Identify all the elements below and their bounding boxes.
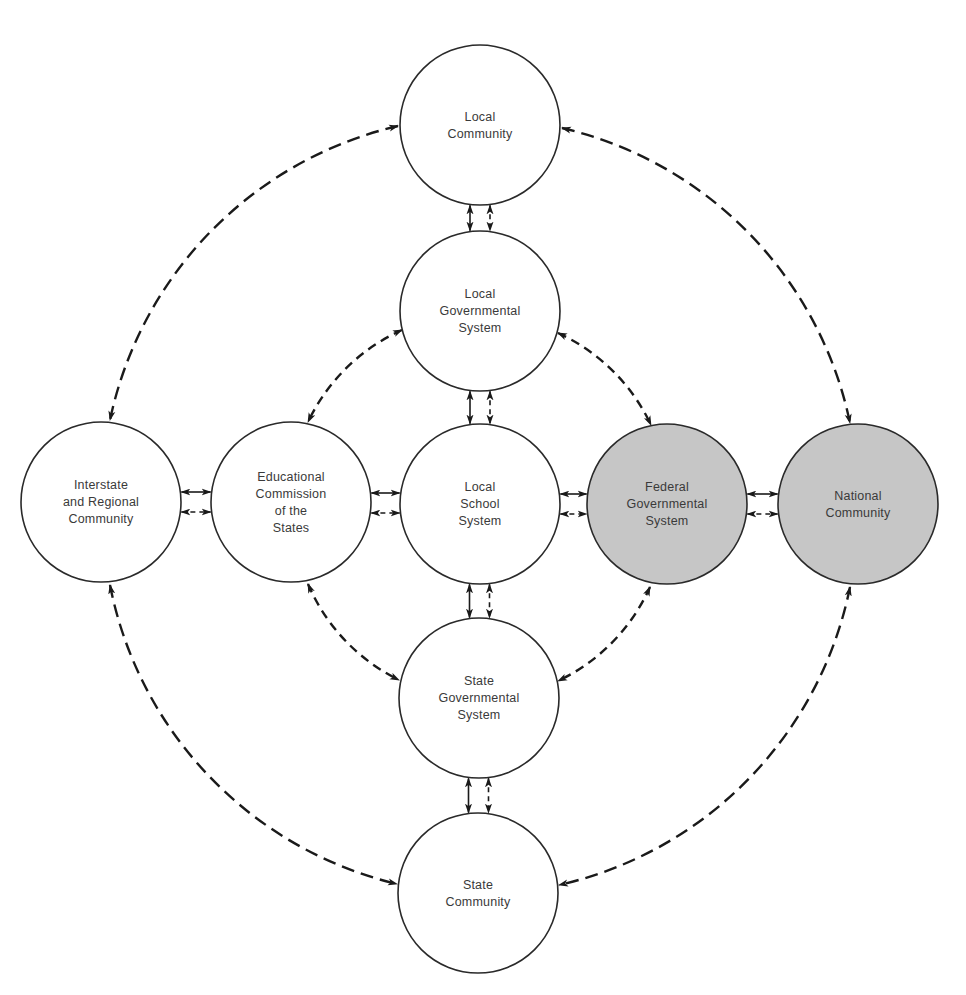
link-pair-local-school-system-federal-governmental-system <box>560 494 586 514</box>
arc-interstate-state-community <box>110 585 397 884</box>
node-label-line: Governmental <box>627 497 708 511</box>
node-label-line: System <box>458 708 501 722</box>
arc-national-state-community <box>559 587 850 885</box>
nodes: LocalCommunityLocalGovernmentalSystemLoc… <box>21 45 938 973</box>
node-interstate-regional-community: Interstateand RegionalCommunity <box>21 422 181 582</box>
arc-local-community-national <box>562 128 850 423</box>
link-pair-federal-governmental-system-national-community <box>747 494 777 514</box>
node-local-governmental-system: LocalGovernmentalSystem <box>400 231 560 391</box>
node-label-line: States <box>273 521 310 535</box>
arc-lgs-educational <box>308 330 402 422</box>
node-label-line: Community <box>445 895 511 909</box>
link-pair-local-school-system-state-governmental-system <box>470 584 490 617</box>
node-label-line: Federal <box>645 480 689 494</box>
node-circle <box>211 422 371 582</box>
node-label-line: School <box>460 497 499 511</box>
node-state-community: StateCommunity <box>398 813 558 973</box>
arc-lgs-federal <box>558 333 651 425</box>
node-label-line: Community <box>68 512 134 526</box>
arc-educational-sgs <box>308 584 399 680</box>
node-federal-governmental-system: FederalGovernmentalSystem <box>587 424 747 584</box>
node-circle <box>398 813 558 973</box>
arc-federal-sgs <box>558 587 650 681</box>
link-pair-local-governmental-system-local-school-system <box>470 391 490 423</box>
node-label-line: Educational <box>257 470 325 484</box>
network-diagram: LocalCommunityLocalGovernmentalSystemLoc… <box>0 0 966 995</box>
node-circle <box>400 45 560 205</box>
node-label-line: State <box>463 878 493 892</box>
node-label-line: Local <box>465 287 496 301</box>
node-label-line: Community <box>825 506 891 520</box>
node-label-line: Commission <box>256 487 327 501</box>
node-label-line: Governmental <box>439 691 520 705</box>
node-national-community: NationalCommunity <box>778 424 938 584</box>
node-label-line: System <box>459 514 502 528</box>
node-state-governmental-system: StateGovernmentalSystem <box>399 618 559 778</box>
node-local-community: LocalCommunity <box>400 45 560 205</box>
node-label-line: Local <box>465 110 496 124</box>
link-pair-educational-commission-local-school-system <box>371 493 399 513</box>
node-circle <box>778 424 938 584</box>
node-label-line: Community <box>447 127 513 141</box>
link-pair-interstate-regional-community-educational-commission <box>181 492 210 512</box>
node-label-line: National <box>834 489 881 503</box>
node-label-line: System <box>646 514 689 528</box>
node-educational-commission: EducationalCommissionof theStates <box>211 422 371 582</box>
node-label-line: State <box>464 674 494 688</box>
node-label-line: and Regional <box>63 495 139 509</box>
node-label-line: Governmental <box>440 304 521 318</box>
link-pair-local-community-local-governmental-system <box>470 205 490 230</box>
node-label-line: Interstate <box>74 478 128 492</box>
arc-local-community-interstate <box>110 126 398 420</box>
node-label-line: System <box>459 321 502 335</box>
node-label-line: Local <box>465 480 496 494</box>
node-local-school-system: LocalSchoolSystem <box>400 424 560 584</box>
node-label-line: of the <box>275 504 307 518</box>
link-pair-state-governmental-system-state-community <box>469 778 489 812</box>
